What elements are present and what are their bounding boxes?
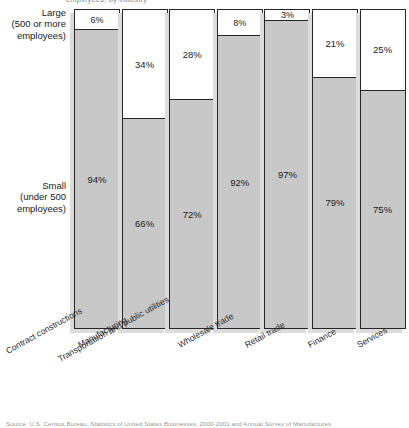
bar-group: 25%75%	[360, 9, 406, 329]
bar-segment-large: 21%	[313, 10, 357, 77]
bar-segment-small: 75%	[361, 90, 405, 329]
bar-value-label-small: 72%	[183, 209, 202, 220]
bar-value-label-small: 79%	[325, 197, 344, 208]
clipped-title-fragment: employees, by industry	[66, 0, 346, 4]
bar-value-label-small: 94%	[87, 174, 106, 185]
bar-value-label-large: 6%	[90, 15, 103, 25]
bar-value-label-large: 21%	[325, 38, 344, 49]
bar-group: 34%66%	[122, 9, 168, 329]
bar-segment-small: 79%	[313, 77, 357, 328]
bar-value-label-small: 97%	[278, 169, 297, 180]
bar-value-label-large: 25%	[373, 44, 392, 55]
bar-stack[interactable]: 6%94%	[74, 9, 120, 329]
bar-group: 28%72%	[169, 9, 215, 329]
bar-group: 8%92%	[217, 9, 263, 329]
bar-segment-large: 34%	[123, 10, 167, 118]
bar-value-label-small: 66%	[135, 218, 154, 229]
bar-group: 21%79%	[312, 9, 358, 329]
bar-segment-large: 6%	[75, 10, 119, 29]
axis-label-small: Small (under 500 employees)	[0, 180, 66, 214]
bar-value-label-large: 3%	[281, 10, 294, 20]
stacked-bar-chart: employees, by industry Large (500 or mor…	[0, 0, 409, 428]
bar-stack[interactable]: 28%72%	[169, 9, 215, 329]
bar-segment-small: 92%	[218, 35, 262, 328]
bar-segment-small: 94%	[75, 29, 119, 328]
bar-stack[interactable]: 21%79%	[312, 9, 358, 329]
bar-group: 6%94%	[74, 9, 120, 329]
bar-segment-large: 28%	[170, 10, 214, 99]
bar-value-label-large: 28%	[183, 49, 202, 60]
axis-label-large: Large (500 or more employees)	[0, 7, 66, 41]
bar-stack[interactable]: 8%92%	[217, 9, 263, 329]
bar-stack[interactable]: 34%66%	[122, 9, 168, 329]
bar-segment-large: 8%	[218, 10, 262, 35]
bar-value-label-small: 75%	[373, 204, 392, 215]
bar-segment-large: 3%	[265, 10, 309, 20]
bar-segment-large: 25%	[361, 10, 405, 90]
bar-segment-small: 97%	[265, 20, 309, 328]
plot-area: 6%94%34%66%28%72%8%92%3%97%21%79%25%75%	[72, 9, 405, 329]
bar-group: 3%97%	[264, 9, 310, 329]
bar-value-label-small: 92%	[230, 177, 249, 188]
source-note-fragment: Source: U.S. Census Bureau, Statistics o…	[6, 420, 406, 428]
bar-segment-small: 72%	[170, 99, 214, 328]
bar-value-label-large: 34%	[135, 59, 154, 70]
bar-value-label-large: 8%	[233, 18, 246, 28]
bar-stack[interactable]: 3%97%	[264, 9, 310, 329]
bar-stack[interactable]: 25%75%	[360, 9, 406, 329]
